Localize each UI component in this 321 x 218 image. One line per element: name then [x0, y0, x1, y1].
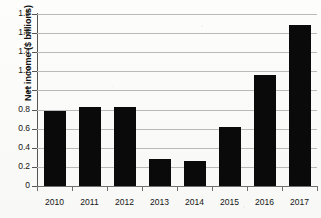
y-tick-mark	[32, 148, 37, 149]
bar-chart: Net income ($ billions) 00.20.40.60.811.…	[0, 0, 321, 218]
bar-2014	[184, 161, 206, 186]
gridline	[37, 14, 317, 15]
x-tick-mark	[107, 187, 108, 191]
x-tick-label-2013: 2013	[140, 197, 180, 207]
bar-2010	[44, 111, 66, 186]
x-tick-mark	[317, 187, 318, 191]
x-tick-mark	[212, 187, 213, 191]
y-tick-mark	[32, 167, 37, 168]
bar-2012	[114, 107, 136, 186]
y-tick-label: 0	[4, 181, 30, 190]
y-tick-mark	[32, 14, 37, 15]
x-tick-label-2010: 2010	[35, 197, 75, 207]
x-tick-mark	[37, 187, 38, 191]
y-tick-label: 0.4	[4, 143, 30, 152]
gridline	[37, 52, 317, 53]
y-tick-mark	[32, 129, 37, 130]
bar-2016	[254, 75, 276, 186]
x-tick-label-2016: 2016	[245, 197, 285, 207]
plot-area	[37, 14, 317, 186]
bar-2013	[149, 159, 171, 186]
y-tick-mark	[32, 90, 37, 91]
y-tick-mark	[32, 110, 37, 111]
y-tick-mark	[32, 33, 37, 34]
x-tick-mark	[142, 187, 143, 191]
gridline	[37, 71, 317, 72]
x-tick-mark	[177, 187, 178, 191]
bar-2011	[79, 107, 101, 186]
bar-2015	[219, 127, 241, 186]
x-tick-label-2012: 2012	[105, 197, 145, 207]
x-tick-mark	[247, 187, 248, 191]
y-tick-label: 0.2	[4, 162, 30, 171]
bar-2017	[289, 25, 311, 186]
x-tick-mark	[282, 187, 283, 191]
x-tick-label-2015: 2015	[210, 197, 250, 207]
y-axis-title: Net income ($ billions)	[23, 0, 33, 133]
x-tick-mark	[72, 187, 73, 191]
gridline	[37, 33, 317, 34]
x-tick-label-2017: 2017	[280, 197, 320, 207]
y-tick-mark	[32, 52, 37, 53]
x-tick-label-2014: 2014	[175, 197, 215, 207]
y-tick-mark	[32, 71, 37, 72]
x-tick-label-2011: 2011	[70, 197, 110, 207]
